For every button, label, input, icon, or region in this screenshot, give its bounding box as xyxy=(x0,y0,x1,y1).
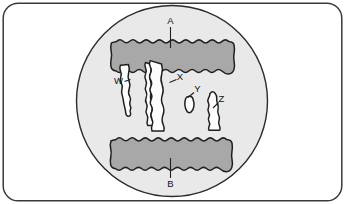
lower-rock-band xyxy=(110,138,232,172)
label-w: W xyxy=(114,75,123,86)
figure-container: A W X Y Z B xyxy=(0,0,345,204)
label-x: X xyxy=(177,71,184,82)
label-y: Y xyxy=(194,83,201,94)
oval-y xyxy=(185,96,194,112)
cave-cross-section-diagram: A W X Y Z B xyxy=(0,0,345,204)
label-z: Z xyxy=(219,93,225,104)
label-b: B xyxy=(167,178,173,189)
label-a: A xyxy=(167,15,174,26)
